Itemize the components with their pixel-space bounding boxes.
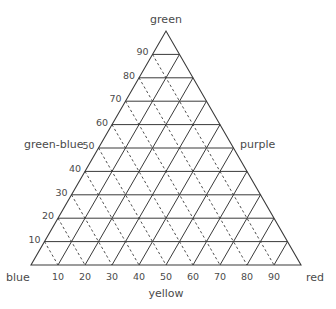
vertex-label-top: green [150, 13, 182, 26]
vertex-label-right: red [306, 271, 324, 284]
left-tick-label: 10 [28, 234, 40, 245]
vertex-label-left: blue [6, 271, 30, 284]
left-tick-label: 60 [96, 117, 108, 128]
left-tick-label: 80 [123, 70, 135, 81]
grid-line-right-parallel [72, 195, 113, 265]
grid-line-left-parallel [274, 242, 288, 265]
bottom-tick-label: 30 [106, 271, 118, 282]
left-tick-label: 90 [136, 46, 148, 57]
bottom-tick-label: 40 [133, 271, 145, 282]
left-tick-label: 50 [82, 140, 94, 151]
left-tick-label: 20 [42, 210, 54, 221]
left-tick-label: 40 [69, 163, 81, 174]
grid-line-left-parallel [112, 101, 207, 265]
side-label-bottom: yellow [148, 287, 183, 300]
bottom-tick-label: 80 [241, 271, 253, 282]
grid-line-left-parallel [166, 148, 234, 265]
left-tick-label: 70 [109, 93, 121, 104]
grid-line-right-parallel [45, 242, 59, 265]
grid-line-left-parallel [58, 54, 180, 265]
grid-line-right-parallel [126, 101, 221, 265]
grid-line-right-parallel [153, 54, 275, 265]
grid-line-left-parallel [220, 195, 261, 265]
bottom-tick-label: 20 [79, 271, 91, 282]
bottom-tick-label: 10 [52, 271, 64, 282]
left-tick-label: 30 [55, 187, 67, 198]
ternary-diagram: green blue red green-blue purple yellow … [0, 0, 336, 309]
side-label-right: purple [240, 138, 276, 151]
grid-line-right-parallel [99, 148, 167, 265]
side-label-left: green-blue [24, 138, 84, 151]
bottom-tick-label: 50 [160, 271, 172, 282]
bottom-tick-label: 90 [268, 271, 280, 282]
bottom-tick-label: 60 [187, 271, 199, 282]
bottom-tick-labels: 102030405060708090 [52, 271, 280, 282]
grid-lines [45, 54, 288, 265]
bottom-tick-label: 70 [214, 271, 226, 282]
